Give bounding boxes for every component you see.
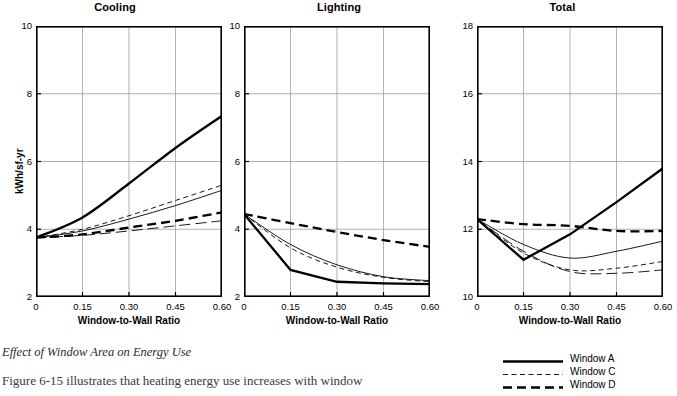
- body-text: Figure 6-15 illustrates that heating ene…: [2, 372, 472, 389]
- plot-area: [244, 26, 430, 297]
- legend-key-icon: [503, 366, 563, 377]
- panel-title-cooling: Cooling: [0, 1, 230, 13]
- legend-key-icon: [503, 353, 563, 364]
- plot-area: [36, 26, 222, 297]
- legend-key-icon: [503, 379, 563, 390]
- legend-item-window-c: Window C: [503, 365, 673, 378]
- y-tick-label: 8: [2, 88, 32, 99]
- panel-title-total: Total: [448, 1, 677, 13]
- chart-canvas: [244, 26, 430, 297]
- plot-area: [477, 26, 663, 297]
- x-tick-label: 0.45: [364, 301, 404, 312]
- x-tick-label: 0: [16, 301, 56, 312]
- x-tick-label: 0: [224, 301, 264, 312]
- x-tick-label: 0.60: [410, 301, 450, 312]
- legend: Window AWindow CWindow D: [503, 352, 673, 391]
- x-tick-label: 0.15: [504, 301, 544, 312]
- legend-label: Window C: [570, 366, 616, 377]
- figure-caption: Effect of Window Area on Energy Use: [2, 345, 442, 360]
- x-tick-label: 0.15: [271, 301, 311, 312]
- x-axis-label: Window-to-Wall Ratio: [244, 315, 430, 326]
- y-tick-label: 8: [210, 88, 240, 99]
- x-tick-label: 0.30: [317, 301, 357, 312]
- legend-item-window-a: Window A: [503, 352, 673, 365]
- panel-title-lighting: Lighting: [230, 1, 448, 13]
- figure-window-area-energy-use: Cooling 24681000.150.300.450.60Window-to…: [0, 0, 677, 330]
- x-tick-label: 0.60: [643, 301, 677, 312]
- x-tick-label: 0.15: [63, 301, 103, 312]
- x-axis-label: Window-to-Wall Ratio: [36, 315, 222, 326]
- gridlines: [36, 26, 222, 297]
- gridlines: [244, 26, 430, 297]
- gridlines: [477, 26, 663, 297]
- panel-total: Total 101214161800.150.300.450.60Window-…: [448, 0, 677, 330]
- y-tick-label: 14: [443, 156, 473, 167]
- y-tick-label: 10: [2, 20, 32, 31]
- y-tick-label: 16: [443, 88, 473, 99]
- x-tick-label: 0.30: [550, 301, 590, 312]
- y-tick-label: 18: [443, 20, 473, 31]
- x-axis-label: Window-to-Wall Ratio: [477, 315, 663, 326]
- y-tick-label: 12: [443, 223, 473, 234]
- y-axis-label: kWh/sf-yr: [14, 148, 25, 194]
- chart-canvas: [477, 26, 663, 297]
- legend-label: Window A: [570, 353, 614, 364]
- panel-lighting: Lighting 24681000.150.300.450.60Window-t…: [230, 0, 448, 330]
- y-tick-label: 4: [2, 223, 32, 234]
- legend-item-window-d: Window D: [503, 378, 673, 391]
- x-tick-label: 0: [457, 301, 497, 312]
- x-tick-label: 0.30: [109, 301, 149, 312]
- y-tick-label: 10: [210, 20, 240, 31]
- x-tick-label: 0.45: [597, 301, 637, 312]
- panel-cooling: Cooling 24681000.150.300.450.60Window-to…: [0, 0, 230, 330]
- legend-label: Window D: [570, 379, 616, 390]
- y-tick-label: 4: [210, 223, 240, 234]
- y-tick-label: 6: [210, 156, 240, 167]
- chart-canvas: [36, 26, 222, 297]
- x-tick-label: 0.45: [156, 301, 196, 312]
